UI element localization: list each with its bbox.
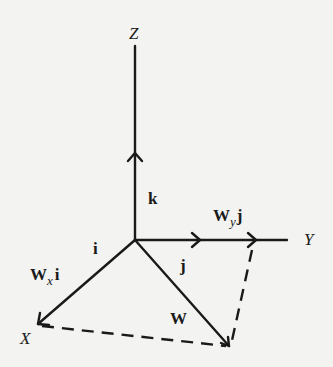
z-axis-label: Z <box>129 25 138 42</box>
wy-main: W <box>213 206 230 225</box>
x-axis-label: X <box>20 330 30 347</box>
wy-subscript: y <box>230 214 236 229</box>
k-label: k <box>148 190 157 207</box>
dashed-line-x <box>42 326 226 346</box>
y-axis-label: Y <box>304 231 313 248</box>
w-label: W <box>170 310 187 327</box>
dashed-line-y <box>231 250 252 345</box>
wx-i-label: Wxi <box>30 266 60 283</box>
vector-diagram <box>0 0 333 367</box>
j-label: j <box>180 257 186 274</box>
wx-main: W <box>30 265 47 284</box>
i-label: i <box>93 240 98 257</box>
wy-j-label: Wyj <box>213 207 242 224</box>
wy-unit: j <box>237 206 243 225</box>
wx-unit: i <box>55 265 60 284</box>
wx-subscript: x <box>47 273 53 288</box>
